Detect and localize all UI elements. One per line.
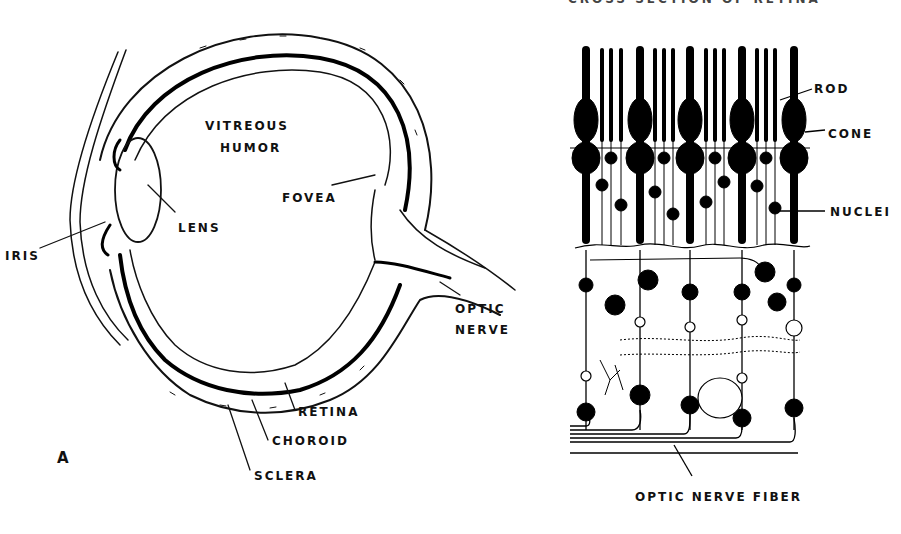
label-fovea: FOVEA [282,192,337,204]
label-choroid: CHOROID [272,435,349,447]
label-rod: ROD [814,83,849,95]
label-retina: RETINA [298,406,359,418]
label-lens: LENS [178,222,221,234]
label-cone: CONE [828,128,873,140]
eye-cross-section-drawing [0,0,901,534]
label-nerve: NERVE [455,324,510,336]
label-optic-nerve-fiber: OPTIC NERVE FIBER [635,491,802,503]
label-iris: IRIS [5,250,40,262]
label-humor: HUMOR [220,142,281,154]
panel-letter-a: A [57,451,69,466]
label-sclera: SCLERA [254,470,318,482]
label-vitreous: VITREOUS [205,120,289,132]
label-nuclei: NUCLEI [830,206,891,218]
label-optic: OPTIC [455,303,505,315]
